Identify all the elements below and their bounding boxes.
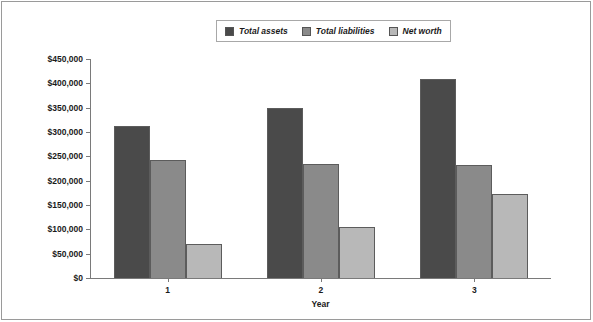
legend-swatch-icon	[225, 27, 234, 36]
y-axis-label: $0	[14, 273, 83, 283]
chart-container: Total assetsTotal liabilitiesNet worth $…	[1, 1, 591, 320]
y-axis-label: $50,000	[14, 249, 83, 259]
bar-group: 3	[398, 59, 551, 278]
legend-item[interactable]: Total liabilities	[302, 27, 375, 36]
y-axis-label: $150,000	[14, 200, 83, 210]
legend-label: Total assets	[239, 27, 288, 36]
x-axis-tick	[321, 278, 322, 282]
x-axis-tick	[474, 278, 475, 282]
bar[interactable]	[339, 227, 375, 278]
x-axis-title: Year	[90, 299, 551, 309]
y-axis-label: $450,000	[14, 54, 83, 64]
y-axis-label: $300,000	[14, 127, 83, 137]
y-axis-tick	[86, 83, 90, 84]
legend-label: Net worth	[403, 27, 442, 36]
y-axis-label: $400,000	[14, 78, 83, 88]
bar[interactable]	[303, 164, 339, 278]
x-axis-label: 3	[472, 285, 477, 295]
y-axis-label: $200,000	[14, 176, 83, 186]
y-axis-label: $100,000	[14, 224, 83, 234]
chart-legend: Total assetsTotal liabilitiesNet worth	[216, 20, 451, 42]
bar[interactable]	[186, 244, 222, 278]
y-axis-tick	[86, 59, 90, 60]
x-axis-tick	[168, 278, 169, 282]
y-axis-tick	[86, 156, 90, 157]
bar-group: 1	[91, 59, 244, 278]
bar[interactable]	[150, 160, 186, 278]
legend-item[interactable]: Net worth	[389, 27, 442, 36]
y-axis-tick	[86, 254, 90, 255]
bar-group: 2	[244, 59, 397, 278]
y-axis-label: $250,000	[14, 151, 83, 161]
y-axis-tick	[86, 229, 90, 230]
bar[interactable]	[456, 165, 492, 278]
legend-item[interactable]: Total assets	[225, 27, 288, 36]
x-axis-label: 1	[165, 285, 170, 295]
y-axis-label: $350,000	[14, 103, 83, 113]
bar[interactable]	[114, 126, 150, 278]
x-axis-label: 2	[319, 285, 324, 295]
legend-swatch-icon	[389, 27, 398, 36]
bar[interactable]	[267, 108, 303, 278]
y-axis-tick	[86, 108, 90, 109]
y-axis-tick	[86, 278, 90, 279]
legend-label: Total liabilities	[316, 27, 375, 36]
legend-swatch-icon	[302, 27, 311, 36]
y-axis-tick	[86, 205, 90, 206]
y-axis-tick	[86, 132, 90, 133]
bar[interactable]	[492, 194, 528, 278]
y-axis-tick	[86, 181, 90, 182]
plot-area: $450,000$400,000$350,000$300,000$250,000…	[90, 59, 550, 278]
bar[interactable]	[420, 79, 456, 278]
bar-groups: 123	[91, 59, 551, 278]
